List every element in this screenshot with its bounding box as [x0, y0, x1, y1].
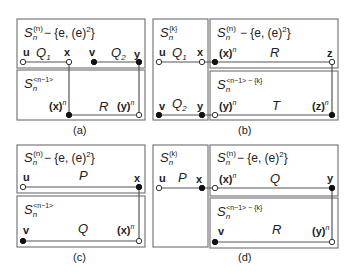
node-label: u [159, 46, 166, 58]
path-label: Q2 [172, 96, 187, 113]
node-label: v [23, 224, 30, 236]
node-label: (x)n [49, 99, 66, 112]
node-label: u [23, 46, 30, 58]
node-label: v [218, 225, 225, 237]
panel-caption: (c) [73, 251, 86, 263]
subgraph-label: Sn<n−1> − {k} [217, 204, 263, 221]
subgraph-label: Sn<n−1> − {k} [217, 77, 263, 94]
node-x [199, 59, 204, 64]
path-label: Q1 [36, 45, 51, 62]
diagram-canvas: Sn(n)− {e, (e)2} Sn<n−1> u Q1 x v Q2 y (… [0, 0, 355, 274]
node-v [212, 239, 217, 244]
subgraph-label: Sn<n−1> [24, 76, 53, 93]
subgraph-label: Sn(k) [160, 150, 177, 167]
path-label: R [270, 45, 279, 60]
node-yn [136, 112, 141, 117]
node-label: v [89, 46, 96, 58]
node-yn [329, 239, 334, 244]
node-y [136, 59, 141, 64]
node-label: (x)n [219, 46, 236, 59]
node-label: u [23, 171, 30, 183]
node-v [91, 59, 96, 64]
node-xn [136, 238, 141, 243]
node-label: x [196, 173, 203, 185]
node-x [136, 184, 141, 189]
node-label: v [159, 100, 166, 112]
node-label: u [159, 172, 166, 184]
node-label: (x)n [219, 172, 236, 185]
node-v [156, 112, 161, 117]
path-label: Q1 [172, 45, 187, 62]
path-label: Q [78, 221, 88, 236]
node-label: (x)n [117, 223, 134, 236]
panel-a: Sn(n)− {e, (e)2} Sn<n−1> u Q1 x v Q2 y (… [17, 19, 145, 136]
subgraph-label: Sn(n)− {e, (e)2} [24, 24, 95, 42]
panel-caption: (d) [238, 251, 251, 263]
node-label: (y)n [312, 224, 329, 237]
node-y [199, 112, 204, 117]
node-label: y [197, 100, 204, 112]
path-label: P [79, 168, 88, 183]
node-x [199, 185, 204, 190]
node-label: z [327, 47, 333, 59]
node-label: y [327, 172, 334, 184]
node-label: x [134, 172, 141, 184]
node-xn [212, 59, 217, 64]
subgraph-label: Sn(n)− {e, (e)2} [24, 149, 95, 167]
path-label: T [272, 98, 281, 113]
node-label: x [64, 46, 71, 58]
node-u [20, 59, 25, 64]
panel-d: Sn(k) Sn(n)− {e, (e)2} Sn<n−1> − {k} u P… [153, 145, 338, 263]
path-label: R [272, 222, 281, 237]
node-label: y [134, 48, 141, 60]
subgraph-label: Sn<n−1> [24, 202, 53, 219]
node-xn [66, 112, 71, 117]
node-label: (y)n [219, 99, 236, 112]
path-label: Q2 [111, 45, 126, 62]
node-zn [329, 112, 334, 117]
path-label: Q [270, 171, 280, 186]
node-u [156, 59, 161, 64]
node-x [66, 59, 71, 64]
subgraph-label: Sn{k} [160, 25, 178, 42]
node-v [20, 238, 25, 243]
path-label: P [178, 170, 187, 185]
panel-b: Sn{k} Sn(n)− {e, (e)2} Sn<n−1> − {k} u Q… [153, 19, 338, 136]
node-z [329, 59, 334, 64]
subgraph-label: Sn(n)− {e, (e)2} [217, 24, 291, 42]
panel-caption: (a) [73, 124, 86, 136]
node-xn [212, 185, 217, 190]
node-label: (y)n [117, 99, 134, 112]
node-label: (z)n [312, 99, 329, 112]
panel-caption: (b) [238, 124, 251, 136]
node-yn [212, 112, 217, 117]
path-label: R [99, 99, 108, 114]
node-y [329, 185, 334, 190]
panel-c: Sn(n)− {e, (e)2} Sn<n−1> u P x v Q (x)n … [17, 145, 145, 263]
node-u [20, 184, 25, 189]
node-label: x [197, 46, 204, 58]
subgraph-label: Sn(n)− {e, (e)2} [217, 149, 288, 167]
node-u [156, 185, 161, 190]
